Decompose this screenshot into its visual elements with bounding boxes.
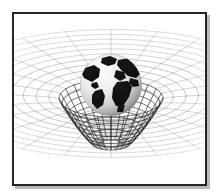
earth-sphere-svg	[80, 54, 142, 116]
figure-frame	[12, 12, 207, 186]
earth-globe	[80, 54, 142, 116]
spacetime-figure: Spacetime curvature around Earth	[0, 0, 218, 196]
